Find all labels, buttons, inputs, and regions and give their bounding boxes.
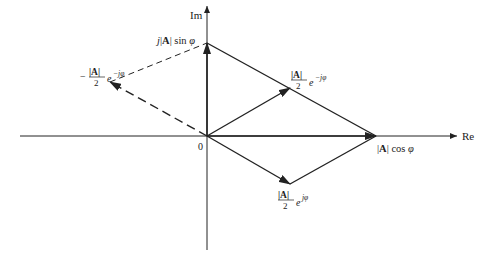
svg-text:−jφ: −jφ (315, 73, 326, 82)
real-axis-label: Re (462, 130, 474, 142)
svg-text:jφ: jφ (301, 193, 308, 202)
origin-label: 0 (198, 141, 203, 152)
svg-text:|A|: |A| (278, 190, 289, 200)
svg-text:|A|: |A| (89, 67, 100, 77)
diamond-edge-lower-right (290, 136, 376, 184)
vector-upper-right (207, 88, 290, 136)
svg-text:e: e (296, 197, 301, 208)
imag-axis-label: Im (190, 9, 203, 21)
label-imag-point: j|A| sin φ (155, 35, 195, 46)
dashed-left-top (110, 43, 207, 82)
label-upper-right: |A| 2 e −jφ (291, 70, 326, 91)
svg-text:2: 2 (283, 201, 288, 211)
svg-text:−: − (80, 71, 86, 82)
svg-text:e: e (107, 73, 112, 84)
label-real-point: |A| cos φ (377, 143, 414, 154)
svg-text:|A|: |A| (291, 70, 302, 80)
label-lower: |A| 2 e jφ (278, 190, 308, 211)
svg-text:2: 2 (296, 81, 301, 91)
label-left: − |A| 2 e −jφ (80, 67, 124, 88)
vector-lower (207, 136, 290, 184)
dashed-left-vector (110, 82, 207, 136)
phasor-diagram: Im Re 0 j|A| sin φ |A| cos φ |A| 2 e −jφ… (0, 0, 482, 256)
svg-text:−jφ: −jφ (113, 69, 124, 78)
svg-text:2: 2 (94, 78, 99, 88)
svg-text:e: e (309, 77, 314, 88)
